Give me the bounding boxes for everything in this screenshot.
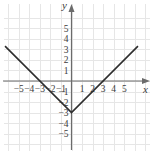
x-tick-label: 3 <box>101 84 106 94</box>
y-tick-label: 1 <box>64 66 69 76</box>
grid-lines <box>4 4 150 151</box>
y-tick-label: −2 <box>58 98 68 108</box>
axes <box>3 4 150 150</box>
y-tick-label: 4 <box>64 34 69 44</box>
coordinate-plot: −5−4−3−2−112345 54321−1−2−3−4−5 <box>0 0 154 155</box>
y-tick-label: −1 <box>58 87 68 97</box>
x-tick-label: 1 <box>80 84 85 94</box>
y-axis-label: y <box>62 0 67 11</box>
graph-figure: −5−4−3−2−112345 54321−1−2−3−4−5 y x <box>0 0 154 155</box>
x-tick-label: 4 <box>111 84 116 94</box>
x-tick-label: 5 <box>122 84 127 94</box>
y-tick-label: 5 <box>64 24 69 34</box>
x-tick-label: −4 <box>24 84 34 94</box>
y-axis-arrow <box>69 4 75 12</box>
y-tick-label: −3 <box>58 108 68 118</box>
y-tick-label: −4 <box>58 119 68 129</box>
y-tick-label: 3 <box>64 45 69 55</box>
y-tick-label: 2 <box>64 55 69 65</box>
x-tick-label: −5 <box>14 84 24 94</box>
x-axis-label: x <box>143 84 148 95</box>
y-tick-label: −5 <box>58 129 68 139</box>
